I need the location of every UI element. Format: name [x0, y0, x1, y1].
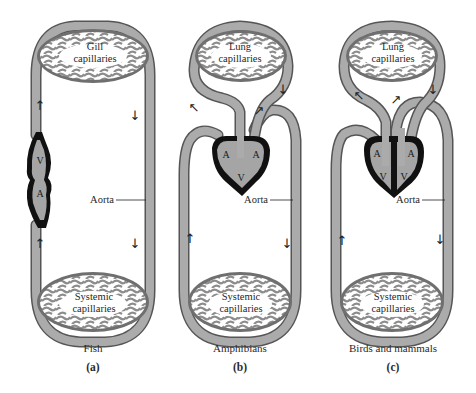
panel-birds-mammals: Lung capillaries Systemic capillaries A …	[336, 26, 448, 374]
arrow-down-icon: ↓	[428, 82, 439, 97]
fish-aorta-label: Aorta	[90, 194, 114, 205]
arrow-up-icon: ↑	[35, 98, 46, 113]
arrow-down-icon: ↓	[435, 232, 446, 247]
arrow-down-icon: ↓	[282, 236, 293, 251]
amphibian-systemic-label-line1: Systemic	[222, 291, 261, 302]
arrow-right-up-icon: ↗	[391, 92, 402, 107]
circulation-diagram: Gill capillaries Systemic capillaries V …	[0, 0, 476, 393]
mammal-systemic-label-line2: capillaries	[371, 303, 414, 314]
arrow-left-up-icon: ↖	[189, 100, 200, 115]
amphibian-right-atrium-label: A	[252, 149, 260, 160]
amphibian-left-atrium-label: A	[222, 149, 230, 160]
arrow-down-icon: ↓	[130, 236, 141, 251]
arrow-up-icon: ↑	[337, 233, 348, 248]
fish-atrium-label: A	[36, 188, 44, 199]
panel-b-letter: (b)	[233, 361, 247, 374]
mammal-right-atrium-label: A	[407, 148, 415, 159]
arrow-down-icon: ↓	[130, 108, 141, 123]
mammal-lung-capillaries-label-line1: Lung	[382, 41, 405, 52]
fish-systemic-capillaries: Systemic capillaries	[37, 272, 149, 332]
fish-ventricle-label: V	[36, 155, 44, 166]
birds-mammals-caption: Birds and mammals	[349, 342, 437, 354]
lung-capillaries-label-line1: Lung	[229, 41, 252, 52]
amphibians-caption: Amphibians	[213, 342, 267, 354]
mammal-left-atrium-label: A	[373, 148, 381, 159]
gill-capillaries-label-line2: capillaries	[73, 53, 116, 64]
arrow-down-icon: ↓	[278, 82, 289, 97]
mammal-systemic-capillaries: Systemic capillaries	[340, 272, 444, 332]
mammal-systemic-label-line1: Systemic	[374, 291, 413, 302]
arrow-right-up-icon: ↗	[254, 103, 265, 118]
panel-amphibians: Lung capillaries Systemic capillaries A …	[184, 26, 296, 374]
mammal-right-ventricle-label: V	[400, 171, 408, 182]
arrow-left-up-icon: ↖	[354, 88, 365, 103]
panel-fish: Gill capillaries Systemic capillaries V …	[27, 26, 150, 374]
fish-systemic-label-line1: Systemic	[75, 291, 114, 302]
mammal-left-ventricle-label: V	[379, 171, 387, 182]
fish-caption: Fish	[84, 342, 103, 354]
gill-capillaries: Gill capillaries	[37, 29, 149, 83]
fish-heart: V A	[27, 132, 52, 228]
amphibian-aorta-label: Aorta	[244, 194, 268, 205]
mammal-aorta-label: Aorta	[396, 194, 420, 205]
mammal-lung-capillaries: Lung capillaries	[346, 30, 438, 82]
fish-systemic-label-line2: capillaries	[72, 303, 115, 314]
lung-capillaries-label-line2: capillaries	[218, 53, 261, 64]
gill-capillaries-label-line1: Gill	[87, 41, 103, 52]
amphibian-lung-capillaries: Lung capillaries	[195, 30, 287, 82]
panel-a-letter: (a)	[86, 361, 100, 374]
amphibian-systemic-label-line2: capillaries	[219, 303, 262, 314]
mammal-lung-capillaries-label-line2: capillaries	[371, 53, 414, 64]
amphibian-heart: A A V	[212, 130, 270, 196]
amphibian-ventricle-label: V	[237, 172, 245, 183]
mammal-heart: A A V V	[364, 128, 424, 198]
amphibian-systemic-capillaries: Systemic capillaries	[188, 272, 292, 332]
panel-c-letter: (c)	[387, 361, 400, 374]
arrow-up-icon: ↑	[185, 231, 196, 246]
arrow-up-icon: ↑	[35, 236, 46, 251]
